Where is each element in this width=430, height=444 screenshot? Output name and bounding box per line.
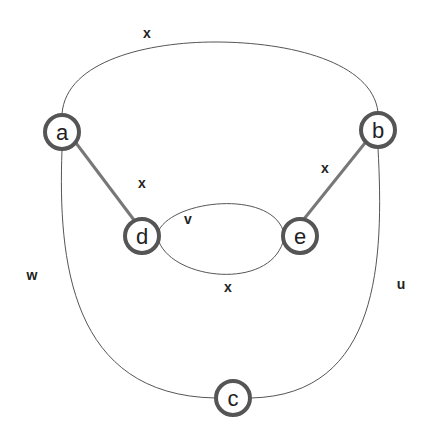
edge-a-d [76,143,134,220]
graph-diagram: a b c d e x x x v x w u [0,0,430,444]
edge-d-e-lower [159,242,283,274]
edge-b-c [251,148,380,398]
node-label-e: e [294,224,306,249]
edge-label-a-d: x [138,175,146,191]
node-e: e [283,219,317,253]
edge-d-e-upper [159,204,283,230]
edge-b-e [304,143,365,219]
node-label-a: a [56,120,69,145]
node-d: d [125,219,159,253]
edge-label-top: x [143,25,151,41]
edge-label-b-e: x [321,160,329,176]
edge-label-d-e-upper: v [184,211,192,227]
edge-label-d-e-lower: x [224,279,232,295]
node-label-b: b [372,118,384,143]
edge-label-left: w [26,267,38,283]
node-label-c: c [228,386,239,411]
edge-label-right: u [397,276,406,292]
node-c: c [216,381,250,415]
node-label-d: d [136,224,148,249]
node-b: b [361,113,395,147]
node-a: a [45,115,79,149]
edge-a-b [62,42,378,114]
